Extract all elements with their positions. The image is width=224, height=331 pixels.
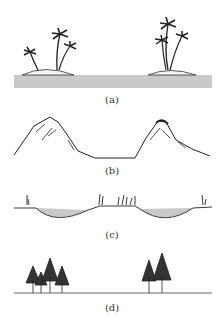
island-right [148,71,196,76]
palm-tree-icon [155,17,188,70]
panel-c-ponds [14,194,212,218]
island-left [22,70,74,76]
pond-left [36,208,88,217]
caption-c: (c) [0,229,224,240]
conifer-tree-icon [26,253,171,293]
palm-tree-icon [24,28,76,70]
water-band [14,75,212,88]
panel-d-trees [14,253,212,293]
caption-b: (b) [0,165,224,176]
caption-a: (a) [0,94,224,105]
mountain-profile [14,117,210,158]
reeds-icon [27,194,206,205]
caption-d: (d) [0,302,224,313]
panel-b-mountains [14,117,210,158]
panel-a-islands [14,17,212,88]
